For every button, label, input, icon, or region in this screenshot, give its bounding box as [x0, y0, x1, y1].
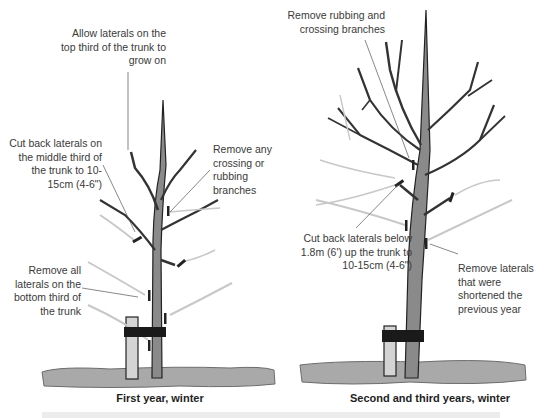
trunk-2 [405, 10, 430, 378]
footer-band [42, 412, 500, 418]
tree-tie-1 [124, 327, 166, 337]
annotation-remove-shortened: Remove laterals that were shortened the … [458, 262, 540, 316]
annotation-cut-back-middle: Cut back laterals on the middle third of… [6, 137, 102, 191]
annotation-remove-crossing: Remove any crossing or rubbing branches [213, 143, 275, 197]
annotation-allow-laterals: Allow laterals on the top third of the t… [58, 27, 166, 68]
tree-tie-2 [382, 330, 424, 342]
caption-second-third-years: Second and third years, winter [320, 392, 540, 404]
second-third-year-tree [300, 10, 526, 384]
first-year-tree [42, 72, 275, 388]
annotation-remove-bottom: Remove all laterals on the bottom third … [6, 264, 81, 318]
caption-first-year: First year, winter [60, 392, 260, 404]
annotation-remove-rubbing: Remove rubbing and crossing branches [283, 9, 385, 36]
annotation-cut-back-below: Cut back laterals below 1.8m (6') up the… [300, 232, 412, 273]
